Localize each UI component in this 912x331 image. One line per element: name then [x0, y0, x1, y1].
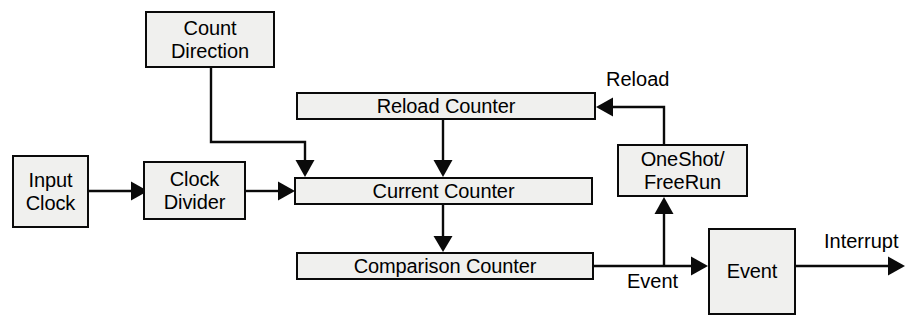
block-count-direction-label: Count Direction [169, 17, 251, 62]
connector-input-clock-to-clock-divider [89, 182, 148, 201]
block-reload-counter[interactable]: Reload Counter [296, 92, 596, 120]
edge-label-reload: Reload [606, 69, 669, 89]
block-diagram-canvas: Count Direction Reload Counter Input Clo… [0, 0, 912, 331]
block-comparison-counter[interactable]: Comparison Counter [296, 252, 594, 280]
connector-event-tap-to-oneshot [655, 197, 674, 266]
edge-label-interrupt: Interrupt [824, 231, 898, 251]
block-current-counter-label: Current Counter [371, 180, 517, 202]
connector-current-counter-to-comparison-counter [434, 205, 453, 252]
block-clock-divider-label: Clock Divider [162, 168, 228, 213]
connector-clock-divider-to-current-counter [246, 182, 295, 201]
block-event[interactable]: Event [708, 228, 796, 315]
block-input-clock[interactable]: Input Clock [12, 155, 89, 228]
block-event-label: Event [725, 260, 780, 282]
block-comparison-counter-label: Comparison Counter [352, 255, 539, 277]
connector-event-to-interrupt-output [796, 257, 905, 276]
connector-reload-counter-to-current-counter [434, 120, 453, 177]
block-current-counter[interactable]: Current Counter [294, 177, 593, 205]
block-input-clock-label: Input Clock [24, 169, 78, 214]
block-oneshot-freerun-label: OneShot/ FreeRun [639, 148, 727, 193]
block-clock-divider[interactable]: Clock Divider [143, 161, 246, 220]
edge-label-event: Event [627, 271, 678, 291]
block-reload-counter-label: Reload Counter [375, 95, 518, 117]
block-oneshot-freerun[interactable]: OneShot/ FreeRun [617, 144, 748, 197]
block-count-direction[interactable]: Count Direction [145, 11, 275, 68]
connector-oneshot-to-reload-counter [596, 98, 664, 145]
